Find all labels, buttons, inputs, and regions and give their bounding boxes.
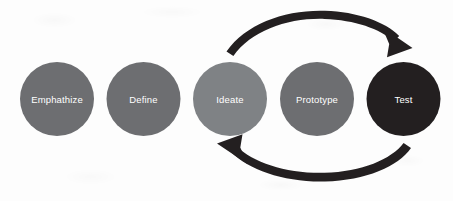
- bottom-arrow-shaft: [231, 143, 411, 182]
- top-arrow-head: [382, 27, 413, 57]
- stage-circle-define[interactable]: [107, 62, 181, 136]
- stage-circle-test[interactable]: [367, 62, 441, 136]
- design-thinking-diagram: Emphathize Define Ideate Prototype Test: [0, 0, 453, 201]
- top-curved-arrow: [227, 11, 413, 57]
- stage-node-define[interactable]: Define: [107, 62, 181, 136]
- stage-circle-ideate[interactable]: [193, 62, 267, 136]
- stage-node-emphathize[interactable]: Emphathize: [20, 62, 94, 136]
- bottom-arrow-head: [217, 134, 248, 164]
- stage-node-ideate[interactable]: Ideate: [193, 62, 267, 136]
- bottom-curved-arrow: [217, 134, 411, 181]
- diagram-canvas: Emphathize Define Ideate Prototype Test: [0, 0, 453, 201]
- stage-circle-prototype[interactable]: [280, 62, 354, 136]
- stage-node-prototype[interactable]: Prototype: [280, 62, 354, 136]
- stage-node-test[interactable]: Test: [367, 62, 441, 136]
- stage-circle-emphathize[interactable]: [20, 62, 94, 136]
- top-arrow-shaft: [227, 11, 400, 56]
